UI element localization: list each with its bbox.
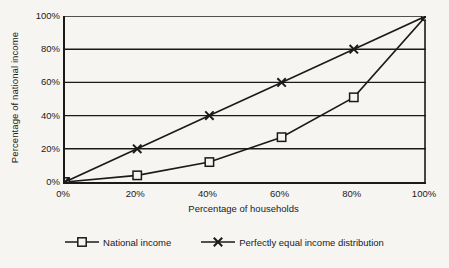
legend-label: Perfectly equal income distribution [239,237,384,248]
x-tick-label-60: 60% [270,188,289,199]
x-axis-title: Percentage of households [63,203,424,214]
legend-label: National income [103,237,171,248]
chart-legend: National incomePerfectly equal income di… [0,236,449,248]
x-tick-label-100: 100% [412,188,436,199]
datapoint-40-12 [205,158,213,166]
lorenz-curve-chart: Percentage of national income 0%20%40%60… [0,0,449,268]
legend-entry-2[interactable]: Perfectly equal income distribution [201,236,384,248]
x-cross-marker-icon [201,236,235,248]
y-tick-label-60: 60% [26,77,60,87]
datapoint-20-4 [133,171,141,179]
datapoint-80-51 [350,93,358,101]
gridlines [65,16,426,149]
series-line [65,16,426,182]
series-2 [65,16,426,182]
x-tick-label-80: 80% [342,188,361,199]
y-tick-label-20: 20% [26,144,60,154]
x-axis-tick-labels: 0%20%40%60%80%100% [0,188,449,202]
y-axis-tick-labels: 0%20%40%60%80%100% [22,0,60,268]
x-tick-label-20: 20% [126,188,145,199]
datapoint-60-27 [277,133,285,141]
y-tick-label-100: 100% [26,11,60,21]
y-tick-label-40: 40% [26,111,60,121]
x-tick-label-0: 0% [56,188,70,199]
y-axis-title: Percentage of national income [9,8,20,188]
legend-square-marker [78,238,86,246]
y-tick-label-80: 80% [26,44,60,54]
chart-canvas [65,16,426,182]
y-tick-label-0: 0% [26,177,60,187]
plot-area [63,16,426,184]
square-marker-icon [65,236,99,248]
legend-entry-1[interactable]: National income [65,236,171,248]
x-tick-label-40: 40% [198,188,217,199]
data-series-layer [65,16,426,182]
